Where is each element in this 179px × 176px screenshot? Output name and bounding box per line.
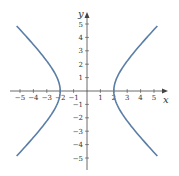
ticks: −5−4−3−2−112345−5−4−3−2−112345 [15, 21, 156, 163]
y-arrow-icon [85, 12, 90, 18]
hyperbola-chart: −5−4−3−2−112345−5−4−3−2−112345 x y [0, 0, 179, 176]
y-tick-label: 2 [79, 61, 83, 69]
y-tick-label: 1 [79, 74, 83, 82]
y-tick-label: −5 [73, 155, 83, 163]
x-tick-label: 1 [98, 94, 102, 102]
x-tick-label: 3 [125, 94, 129, 102]
y-tick-label: 3 [79, 47, 83, 55]
x-tick-label: −4 [28, 94, 39, 102]
x-tick-label: −5 [15, 94, 25, 102]
x-tick-label: −3 [42, 94, 52, 102]
y-axis-label: y [77, 8, 84, 19]
x-axis-label: x [163, 94, 169, 105]
x-tick-label: 4 [138, 94, 143, 102]
y-tick-label: −1 [73, 101, 83, 109]
x-tick-label: 5 [152, 94, 156, 102]
y-tick-label: 4 [79, 34, 84, 42]
y-tick-label: −2 [73, 114, 83, 122]
x-arrow-icon [162, 89, 168, 94]
y-tick-label: −3 [73, 128, 83, 136]
y-tick-label: −4 [73, 141, 84, 149]
y-tick-label: 5 [79, 21, 83, 29]
